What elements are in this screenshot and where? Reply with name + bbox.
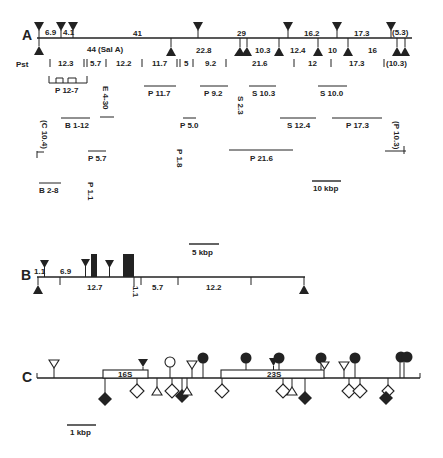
clone-s10-0: S 10.0 [318, 86, 347, 98]
filled-circle-icon [198, 353, 209, 379]
clone-b2-8: B 2-8 [39, 183, 61, 195]
clone-label: (C 10.4) [40, 120, 49, 149]
clone-e4-30: E 4-30 [100, 86, 114, 117]
clone-s10-3: S 10.3 [249, 86, 276, 98]
fragment-label: 17.3 [354, 29, 370, 38]
pst-fragment: 12.3 [58, 59, 74, 68]
pst-fragment: 11.7 [152, 59, 168, 68]
fragment-label: 12.2 [206, 283, 222, 292]
open-diamond-icon [342, 378, 356, 398]
filled-circle-icon [350, 353, 361, 379]
open-circle-icon [165, 357, 175, 378]
clone-label: S 2.3 [236, 96, 245, 115]
clone-p10-3: (P 10.3) [385, 121, 406, 154]
panel-c: C 16S 23S [22, 352, 420, 438]
down-triangle-icon [81, 259, 90, 277]
clone-p17-3: P 17.3 [332, 118, 382, 130]
up-triangle-icon [392, 38, 402, 56]
clone-p1-8: P 1.8 [175, 149, 184, 168]
scale-bar-5kbp: 5 kbp [189, 244, 219, 257]
filled-diamond-icon [98, 378, 112, 406]
fragment-label: 22.8 [196, 46, 212, 55]
clone-label: E 4-30 [101, 86, 110, 110]
pst-fragment: 12 [308, 59, 317, 68]
fragment-label: 10.3 [255, 46, 271, 55]
fragment-label: (5.3) [392, 28, 409, 37]
fragment-label: 16 [368, 46, 377, 55]
fragment-label: 29 [237, 29, 246, 38]
open-down-triangle-icon [339, 362, 349, 378]
open-up-triangle-icon [182, 378, 192, 395]
up-triangle-icon [33, 277, 43, 294]
filled-block-icon [123, 254, 134, 277]
fragment-label: 16.2 [304, 29, 320, 38]
open-diamond-icon [130, 378, 144, 398]
filled-down-triangle-icon [138, 359, 148, 370]
scale-label: 10 kbp [313, 184, 338, 193]
clone-b1-12: B 1-12 [61, 118, 90, 130]
pst-row-label: Pst [16, 60, 29, 69]
clone-label: P 5.0 [180, 121, 199, 130]
filled-circle-icon [241, 353, 252, 371]
fragment-label: 1.1 [34, 267, 46, 276]
up-triangle-icon [166, 38, 176, 56]
pst-fragment: 21.6 [252, 59, 268, 68]
filled-circle-icon [402, 352, 413, 379]
panel-a-label: A [22, 27, 32, 43]
clone-label: P 11.7 [148, 89, 171, 98]
clone-p5-7: P 5.7 [88, 151, 107, 163]
pst-fragment: 17.3 [349, 59, 365, 68]
clone-label: P 17.3 [346, 121, 370, 130]
gene-label: 23S [267, 370, 282, 379]
up-triangle-icon [274, 38, 284, 56]
fragment-label: 4.1 [63, 28, 75, 37]
fragment-label: 12.4 [290, 46, 306, 55]
fragment-label: 10 [328, 46, 337, 55]
clone-s12-4: S 12.4 [280, 118, 316, 130]
pst-fragment: 12.2 [116, 59, 132, 68]
top-site-markers [34, 22, 396, 38]
open-down-triangle-icon [187, 361, 197, 378]
clone-label: (P 10.3) [392, 121, 401, 150]
filled-circle-icon [274, 353, 285, 371]
clone-p9-2: P 9.2 [200, 86, 228, 98]
gene-label: 16S [118, 370, 133, 379]
filled-diamond-icon [298, 378, 312, 405]
clone-s2-3: S 2.3 [236, 96, 245, 115]
down-triangle-icon [193, 22, 203, 38]
clone-c10-4: (C 10.4) [37, 120, 49, 158]
scale-label: 1 kbp [70, 428, 91, 437]
up-triangle-icon [34, 38, 44, 55]
clone-p21-6: P 21.6 [229, 150, 293, 163]
panel-c-label: C [22, 369, 32, 385]
scale-bar-10kbp: 10 kbp [312, 181, 341, 193]
panel-a: A 6.9 4.1 41 29 16.2 [16, 22, 412, 201]
restriction-map-figure: A 6.9 4.1 41 29 16.2 [0, 0, 443, 458]
panel-b-label: B [21, 267, 31, 283]
clone-label: P 5.7 [88, 154, 107, 163]
up-triangle-icon [313, 38, 323, 56]
clone-p5-0: P 5.0 [180, 118, 199, 130]
clone-label: S 10.3 [252, 89, 276, 98]
clone-label: S 10.0 [320, 89, 344, 98]
pst-fragment: 5 [184, 59, 189, 68]
down-triangle-icon [105, 260, 114, 277]
up-triangle-icon [400, 38, 410, 56]
down-triangle-icon [283, 22, 293, 38]
fragment-label: 1.1 [131, 286, 140, 298]
fragment-label: 5.7 [152, 283, 164, 292]
down-triangle-icon [34, 22, 44, 38]
fragment-label: 41 [133, 29, 142, 38]
fragment-label: 44 (Sal A) [87, 45, 123, 54]
open-up-triangle-icon [287, 378, 297, 395]
down-triangle-icon [332, 22, 342, 38]
clone-label: P 9.2 [204, 89, 223, 98]
fragment-label: 12.7 [87, 283, 103, 292]
clone-p1-1: P 1.1 [86, 182, 95, 201]
open-diamond-icon [215, 378, 229, 398]
clone-label: P 21.6 [250, 154, 274, 163]
open-down-triangle-icon [49, 360, 59, 378]
pst-fragment: 5.7 [90, 59, 102, 68]
scale-bar-1kbp: 1 kbp [67, 425, 96, 437]
clone-label: S 12.4 [287, 121, 311, 130]
